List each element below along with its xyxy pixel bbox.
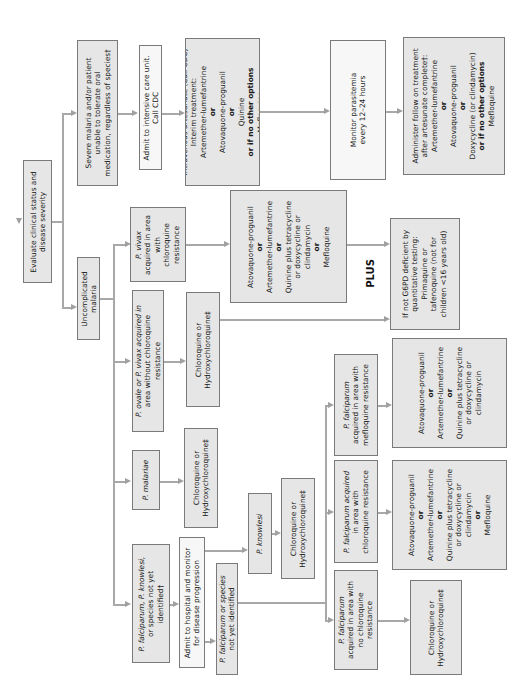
node-text: or if no other options bbox=[478, 62, 487, 151]
node-text: Quinine bbox=[237, 98, 246, 127]
node-text: P. knowlesi bbox=[255, 513, 264, 553]
node-text: tafenoquine (not for bbox=[430, 237, 439, 311]
node-follow-on-treatment: Administer follow on treatment after art… bbox=[403, 37, 505, 175]
node-text: chloroquine resistance bbox=[361, 470, 370, 554]
node-ovale-vivax-treatment: Chloroquine orHydroxychloroquine‡ bbox=[186, 292, 220, 407]
node-falciparum-chloroquine-treatment: Atovaquone-proguanil or Artemether-lumef… bbox=[392, 460, 507, 570]
node-text: identified† bbox=[156, 584, 165, 623]
node-falciparum-no-resistance-treatment: Chloroquine orHydroxychloroquine‡ bbox=[410, 580, 462, 675]
node-text: Interim treatment: bbox=[189, 78, 198, 147]
node-malariae-treatment: Chloroquine orHydroxychloroquine‡ bbox=[184, 428, 218, 528]
node-text: acquired in area bbox=[144, 214, 153, 274]
node-text: P. falciparum acquired bbox=[342, 470, 351, 552]
node-text: P. falciparum, P. knowlesi, bbox=[137, 556, 146, 651]
node-text: Hydroxychloroquine‡ bbox=[298, 490, 307, 568]
node-text: or bbox=[459, 102, 468, 111]
node-text: Atovaquone-proguanil bbox=[449, 65, 458, 147]
node-text: or if no other options bbox=[246, 68, 255, 157]
node-ovale-vivax-no-resistance: P. ovale or P. vivax acquired in area wi… bbox=[132, 290, 164, 432]
node-text: for disease progression bbox=[192, 559, 201, 645]
node-text: or bbox=[445, 389, 454, 398]
node-text: Hydroxychloroquine‡ bbox=[203, 311, 212, 389]
node-text: Artemether-lumefantrine bbox=[430, 60, 439, 152]
node-falciparum-no-resistance: P. falciparum acquired in area with no c… bbox=[334, 570, 378, 670]
node-text: or bbox=[416, 511, 425, 520]
node-text: or bbox=[440, 102, 449, 111]
node-text: P. vivax bbox=[134, 231, 143, 259]
node-text: Artemether-lumefantrine bbox=[426, 469, 435, 561]
node-text: or doxycycline or bbox=[464, 361, 473, 424]
arrow bbox=[125, 601, 131, 607]
node-text: Artemether-lumefantrine bbox=[435, 347, 444, 439]
node-text: or bbox=[227, 108, 236, 117]
connector bbox=[205, 550, 242, 552]
connector bbox=[62, 113, 64, 308]
node-text: Artemether-lumefantrine bbox=[265, 200, 274, 292]
node-malariae: P. malariae bbox=[132, 450, 160, 510]
node-text: Atovaquone-proguanil bbox=[246, 206, 255, 288]
node-text: no chloroquine bbox=[356, 593, 365, 648]
node-text: Chloroquine or bbox=[192, 451, 201, 505]
node-text: Artemether-lumefantrine bbox=[199, 66, 208, 158]
plus-label: PLUS bbox=[365, 259, 376, 288]
connector bbox=[220, 319, 384, 321]
node-text: Primaquine or bbox=[420, 248, 429, 300]
node-text: Mefloquine bbox=[322, 226, 331, 267]
node-text: Atovaquone-proguanil bbox=[407, 474, 416, 556]
node-severe-malaria: Severe malaria and/or patientunable to t… bbox=[77, 40, 118, 186]
node-iv-artesunate: Intravenous artesunate (Call CDC) Interi… bbox=[185, 38, 260, 186]
node-text: every 12–24 hours bbox=[358, 76, 367, 145]
arrow bbox=[125, 358, 131, 364]
node-text: after artesunate complete†: bbox=[421, 54, 430, 157]
node-vivax-resistant-treatment: Atovaquone-proguanil or Artemether-lumef… bbox=[230, 190, 347, 303]
node-text: or doxycycline or bbox=[454, 483, 463, 546]
connector bbox=[164, 361, 180, 363]
node-knowlesi-treatment: Chloroquine orHydroxychloroquine‡ bbox=[281, 478, 315, 579]
node-text: P. malariae bbox=[141, 460, 150, 501]
node-text: Hydroxychloroquine‡ bbox=[201, 439, 210, 517]
node-text: resistance bbox=[153, 342, 162, 380]
node-text: with bbox=[153, 237, 162, 253]
node-uncomplicated-malaria: Uncomplicatedmalaria bbox=[77, 257, 100, 340]
connector bbox=[52, 221, 62, 223]
arrow bbox=[132, 110, 138, 116]
node-text: Quinine plus tetracycline bbox=[454, 347, 463, 439]
connector bbox=[118, 113, 133, 115]
node-text: or bbox=[274, 242, 283, 251]
node-text: or species not yet bbox=[146, 570, 155, 636]
node-text: medication, regardless of species† bbox=[102, 49, 111, 177]
node-text: Atovaquone-proguanil bbox=[416, 352, 425, 434]
node-g6pd-primaquine: If not G6PD deficient by quantitative te… bbox=[390, 218, 460, 330]
node-text: or bbox=[255, 242, 264, 251]
arrow-into-root bbox=[16, 218, 22, 224]
node-text: Chloroquine or bbox=[194, 322, 203, 376]
node-text: children <16 years old) bbox=[439, 231, 448, 318]
connector bbox=[162, 113, 179, 115]
connector bbox=[238, 602, 325, 604]
node-text: Chloroquine or bbox=[289, 501, 298, 555]
node-text: P. falciparum bbox=[342, 381, 351, 429]
connector bbox=[378, 405, 386, 407]
arrow bbox=[125, 478, 131, 484]
node-text: or bbox=[426, 389, 435, 398]
node-falciparum-chloroquine-resistance: P. falciparum acquired in area with chlo… bbox=[334, 460, 378, 563]
node-text: P. falciparum bbox=[337, 596, 346, 644]
node-falciparum-mefloquine-treatment: Atovaquone-proguanil or Artemether-lumef… bbox=[392, 338, 507, 448]
node-falciparum-unidentified: P. falciparum or speciesnot yet identifi… bbox=[216, 563, 238, 675]
node-text: Administer follow on treatment bbox=[411, 48, 420, 163]
node-text: Doxycycline (or clindamycin) bbox=[468, 52, 477, 159]
node-text: not yet identified bbox=[227, 587, 236, 650]
node-text: or bbox=[312, 242, 321, 251]
node-text: Mefloquine bbox=[256, 92, 260, 133]
node-falciparum-mefloquine-resistance: P. falciparum acquired in area with mefl… bbox=[334, 354, 378, 456]
node-text: quantitative testing: bbox=[411, 236, 420, 311]
node-text: P. falciparum or species bbox=[218, 575, 227, 662]
node-text: resistance bbox=[365, 601, 374, 639]
node-text: Quinine plus tetracycline bbox=[445, 469, 454, 561]
node-text: clindamycin bbox=[303, 224, 312, 268]
connector bbox=[378, 512, 386, 514]
node-text: in area with bbox=[351, 490, 360, 534]
node-admit-hospital: Admit to hospital and monitorfor disease… bbox=[179, 537, 205, 668]
node-text: Monitor parasitemia bbox=[349, 73, 358, 147]
node-text: Evaluate clinical status and bbox=[28, 171, 37, 273]
